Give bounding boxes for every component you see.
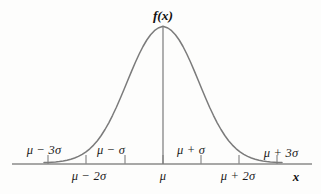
bell-curve-plot bbox=[0, 0, 321, 194]
tick-label-mu-minus-3sigma: μ − 3σ bbox=[27, 143, 62, 158]
page-title: f(x) bbox=[153, 8, 173, 24]
tick-label-mu-plus-2sigma: μ + 2σ bbox=[221, 169, 256, 184]
tick-label-mu-plus-sigma: μ + σ bbox=[177, 143, 205, 158]
tick-label-mu: μ bbox=[160, 169, 166, 184]
normal-distribution-figure: f(x) μ − 3σ μ − σ μ + σ μ + 3σ μ − 2σ μ … bbox=[0, 0, 321, 194]
tick-label-mu-plus-3sigma: μ + 3σ bbox=[264, 146, 299, 161]
tick-label-mu-minus-2sigma: μ − 2σ bbox=[72, 169, 107, 184]
x-axis-label: x bbox=[293, 169, 300, 185]
tick-label-mu-minus-sigma: μ − σ bbox=[97, 143, 125, 158]
